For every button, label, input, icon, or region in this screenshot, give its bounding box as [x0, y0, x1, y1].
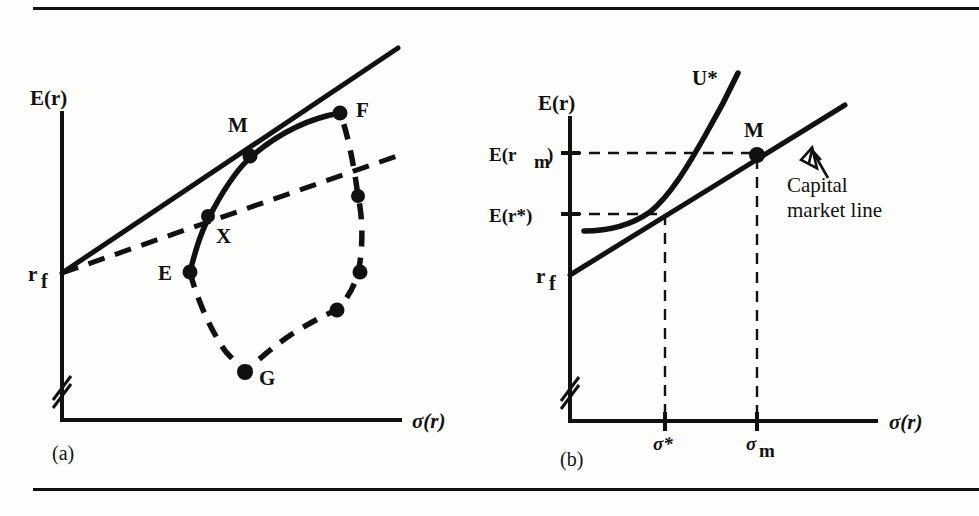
panel-b-y-axis-label: E(r) [538, 91, 575, 115]
figure-container: E(r) σ(r) r f M F X E G (a) [0, 0, 979, 516]
panel-b-xtick-label-sigma-star: σ* [653, 433, 673, 454]
panel-b-xtick-sigma-m-sub: m [759, 440, 775, 461]
panel-b-caption: (b) [560, 448, 583, 471]
panel-b-x-axis-label: σ(r) [889, 410, 922, 434]
panel-b-rf-label-main: r [536, 264, 545, 288]
panel-b-xtick-label-sigma-m: σ m [746, 433, 775, 461]
panel-b-ytick-label-erstar: E(r*) [489, 205, 532, 227]
panel-b-annotation-line1: Capital [787, 173, 848, 197]
panel-b-point-M-dot [749, 147, 765, 163]
panel-b-ytick-erm-main: E(r [489, 144, 517, 166]
panel-b-ytick-erm-close: ) [547, 144, 553, 166]
panel-b-annotation-line2: market line [787, 198, 882, 222]
panel-b-rf-label: r f [536, 264, 556, 294]
panel-b-chart: E(r) σ(r) E(r m ) E(r*) r f U* M Capital… [0, 0, 979, 516]
panel-b-label-U-star: U* [692, 66, 718, 90]
panel-b-indifference-curve [584, 73, 738, 231]
panel-b-ytick-label-erm: E(r m ) [489, 144, 553, 172]
panel-b-xtick-sigma-m-main: σ [746, 433, 757, 454]
panel-b-label-M: M [744, 118, 764, 142]
panel-b-rf-label-sub: f [549, 272, 556, 294]
